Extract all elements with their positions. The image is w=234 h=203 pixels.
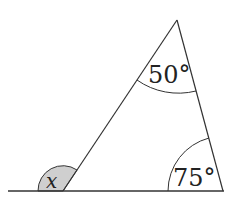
- apex-angle-label: 50°: [148, 61, 191, 89]
- triangle-diagram: 50° 75° x: [0, 0, 234, 203]
- right-angle-label: 75°: [173, 164, 216, 192]
- left-side: [63, 20, 177, 191]
- exterior-angle-label: x: [46, 169, 57, 193]
